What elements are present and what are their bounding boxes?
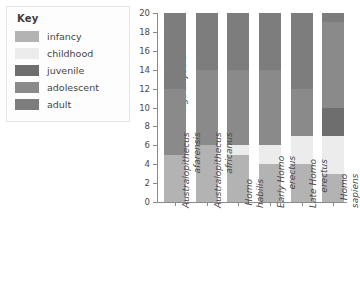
legend-label: adult [47, 99, 71, 110]
chart-plot-area: Age in years 02468101214161820 Australop… [131, 0, 350, 296]
bar-segment-adult [322, 13, 344, 22]
x-axis-label: Homo sapiens [339, 174, 360, 208]
y-tick-label: 8 [132, 121, 150, 131]
y-tick-mark [153, 32, 157, 33]
y-tick-mark [153, 89, 157, 90]
bar-segment-adolescent [322, 22, 344, 107]
x-tick-mark [238, 202, 239, 206]
y-tick-label: 10 [132, 103, 150, 113]
x-tick-mark [302, 202, 303, 206]
legend-label: infancy [47, 31, 82, 42]
x-axis-label: Australopithecus afarensis [181, 132, 202, 208]
y-tick-mark [153, 70, 157, 71]
legend-swatch-adult [15, 99, 39, 110]
y-tick-mark [153, 108, 157, 109]
bar-segment-adult [227, 13, 249, 70]
legend-swatch-childhood [15, 48, 39, 59]
y-tick-label: 6 [132, 140, 150, 150]
y-tick-mark [153, 164, 157, 165]
legend: Key infancychildhoodjuvenileadolescentad… [6, 6, 130, 122]
legend-item-adolescent: adolescent [15, 80, 123, 95]
y-tick-mark [153, 126, 157, 127]
bar-segment-adolescent [259, 70, 281, 146]
y-tick-mark [153, 183, 157, 184]
bar-segment-adolescent [291, 89, 313, 136]
x-tick-mark [270, 202, 271, 206]
y-tick-label: 18 [132, 27, 150, 37]
bar-segment-adult [291, 13, 313, 89]
y-axis-line [157, 13, 158, 203]
y-tick-mark [153, 51, 157, 52]
legend-item-infancy: infancy [15, 29, 123, 44]
legend-item-adult: adult [15, 97, 123, 112]
bar-segment-adult [196, 13, 218, 70]
legend-swatch-adolescent [15, 82, 39, 93]
legend-title: Key [17, 13, 123, 24]
x-axis-label: Australopithecus africanus [213, 132, 234, 208]
legend-swatch-juvenile [15, 65, 39, 76]
y-tick-label: 2 [132, 178, 150, 188]
y-tick-label: 4 [132, 159, 150, 169]
legend-label: juvenile [47, 65, 84, 76]
y-tick-mark [153, 145, 157, 146]
x-tick-mark [175, 202, 176, 206]
legend-item-juvenile: juvenile [15, 63, 123, 78]
legend-item-childhood: childhood [15, 46, 123, 61]
legend-label: childhood [47, 48, 93, 59]
y-tick-mark [153, 202, 157, 203]
y-tick-label: 12 [132, 84, 150, 94]
y-tick-label: 0 [132, 197, 150, 207]
legend-label: adolescent [47, 82, 99, 93]
x-axis-label: Homo habilis [244, 179, 265, 208]
x-tick-mark [333, 202, 334, 206]
x-axis-label: Late Homo erectus [308, 159, 329, 208]
bar-segment-adult [259, 13, 281, 70]
y-tick-label: 14 [132, 65, 150, 75]
y-tick-label: 20 [132, 8, 150, 18]
legend-item-list: infancychildhoodjuvenileadolescentadult [15, 29, 123, 112]
y-tick-mark [153, 13, 157, 14]
bar-segment-juvenile [322, 108, 344, 136]
y-tick-label: 16 [132, 46, 150, 56]
x-tick-mark [207, 202, 208, 206]
bar-segment-adult [164, 13, 186, 89]
legend-swatch-infancy [15, 31, 39, 42]
x-axis-label: Early Homo erectus [276, 156, 297, 208]
